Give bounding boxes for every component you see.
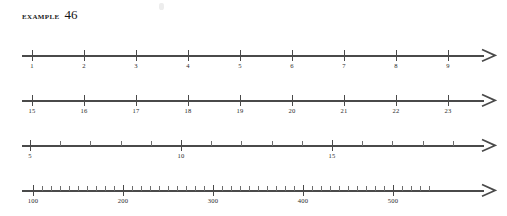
minor-tick — [453, 141, 454, 146]
minor-tick — [375, 186, 376, 191]
minor-tick — [272, 141, 273, 146]
major-tick — [396, 50, 397, 61]
minor-tick — [150, 186, 151, 191]
minor-tick — [96, 186, 97, 191]
tick-label: 3 — [134, 62, 138, 69]
major-tick — [344, 50, 345, 61]
minor-tick — [105, 186, 106, 191]
minor-tick — [330, 186, 331, 191]
major-tick — [188, 95, 189, 106]
major-tick — [84, 95, 85, 106]
minor-tick — [392, 141, 393, 146]
axis-line — [22, 100, 484, 102]
major-tick — [240, 95, 241, 106]
major-tick — [123, 185, 124, 196]
minor-tick — [177, 186, 178, 191]
major-tick — [448, 95, 449, 106]
tick-label: 400 — [298, 197, 309, 204]
tick-label: 21 — [341, 107, 348, 114]
major-tick — [32, 50, 33, 61]
tick-label: 7 — [342, 62, 346, 69]
minor-tick — [168, 186, 169, 191]
tick-label: 10 — [178, 152, 185, 159]
minor-tick — [132, 186, 133, 191]
minor-tick — [42, 186, 43, 191]
example-label: EXAMPLE — [22, 11, 59, 21]
tick-label: 5 — [28, 152, 32, 159]
number-line-4: 100200300400500 — [0, 180, 507, 214]
tick-label: 18 — [185, 107, 192, 114]
major-tick — [188, 50, 189, 61]
tick-label: 15 — [29, 107, 36, 114]
minor-tick — [321, 186, 322, 191]
minor-tick — [159, 186, 160, 191]
minor-tick — [141, 186, 142, 191]
minor-tick — [423, 141, 424, 146]
minor-tick — [51, 186, 52, 191]
page-title: EXAMPLE46 — [22, 5, 77, 23]
major-tick — [393, 185, 394, 196]
minor-tick — [362, 141, 363, 146]
tick-label: 4 — [186, 62, 190, 69]
scan-artifact — [159, 3, 164, 10]
tick-label: 8 — [394, 62, 398, 69]
tick-label: 2 — [82, 62, 86, 69]
minor-tick — [402, 186, 403, 191]
tick-label: 19 — [237, 107, 244, 114]
number-line-3: 51015 — [0, 135, 507, 169]
tick-label: 23 — [445, 107, 452, 114]
major-tick — [181, 140, 182, 151]
minor-tick — [204, 186, 205, 191]
tick-label: 20 — [289, 107, 296, 114]
tick-label: 22 — [393, 107, 400, 114]
major-tick — [136, 50, 137, 61]
minor-tick — [78, 186, 79, 191]
minor-tick — [339, 186, 340, 191]
major-tick — [136, 95, 137, 106]
tick-label: 15 — [329, 152, 336, 159]
minor-tick — [222, 186, 223, 191]
minor-tick — [258, 186, 259, 191]
major-tick — [33, 185, 34, 196]
minor-tick — [60, 186, 61, 191]
axis-arrow-icon — [481, 183, 497, 198]
major-tick — [240, 50, 241, 61]
minor-tick — [285, 186, 286, 191]
minor-tick — [69, 186, 70, 191]
major-tick — [292, 50, 293, 61]
number-line-1: 123456789 — [0, 45, 507, 79]
minor-tick — [231, 186, 232, 191]
minor-tick — [366, 186, 367, 191]
axis-line — [22, 55, 484, 57]
minor-tick — [241, 141, 242, 146]
major-tick — [30, 140, 31, 151]
minor-tick — [294, 186, 295, 191]
minor-tick — [186, 186, 187, 191]
minor-tick — [348, 186, 349, 191]
minor-tick — [114, 186, 115, 191]
tick-label: 16 — [81, 107, 88, 114]
minor-tick — [302, 141, 303, 146]
minor-tick — [60, 141, 61, 146]
minor-tick — [384, 186, 385, 191]
major-tick — [213, 185, 214, 196]
major-tick — [332, 140, 333, 151]
axis-arrow-icon — [481, 48, 497, 63]
tick-label: 500 — [388, 197, 399, 204]
example-number: 46 — [64, 7, 77, 22]
minor-tick — [276, 186, 277, 191]
tick-label: 5 — [238, 62, 242, 69]
minor-tick — [195, 186, 196, 191]
minor-tick — [312, 186, 313, 191]
minor-tick — [90, 141, 91, 146]
tick-label: 200 — [118, 197, 129, 204]
minor-tick — [151, 141, 152, 146]
minor-tick — [429, 186, 430, 191]
minor-tick — [420, 186, 421, 191]
major-tick — [84, 50, 85, 61]
minor-tick — [411, 186, 412, 191]
minor-tick — [240, 186, 241, 191]
major-tick — [32, 95, 33, 106]
major-tick — [292, 95, 293, 106]
axis-line — [22, 190, 484, 192]
